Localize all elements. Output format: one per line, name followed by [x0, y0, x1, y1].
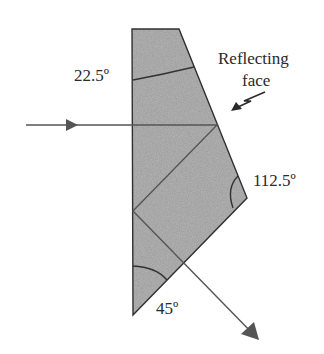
label-bottom-angle: 45º	[156, 299, 178, 318]
label-top-angle: 22.5º	[74, 66, 109, 85]
label-right-angle: 112.5º	[253, 171, 296, 190]
arrowhead-right-icon	[66, 119, 78, 131]
label-reflecting-face-line1: Reflecting	[218, 49, 289, 68]
lightning-arrow-icon	[238, 92, 265, 107]
label-reflecting-face-line2: face	[242, 71, 270, 90]
prism-diagram: 22.5º Reflecting face 112.5º 45º	[0, 0, 324, 354]
prism-texture	[132, 29, 247, 315]
